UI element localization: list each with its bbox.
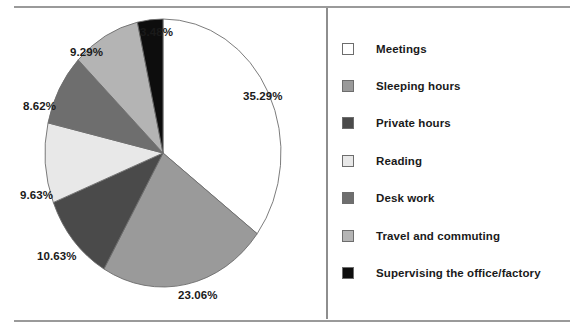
legend-item[interactable]: Travel and commuting	[342, 217, 574, 254]
legend-color-swatch-icon	[342, 192, 354, 204]
legend-color-swatch-icon	[342, 267, 354, 279]
legend-color-swatch-icon	[342, 80, 354, 92]
legend-item-label: Desk work	[376, 192, 434, 204]
legend-item[interactable]: Sleeping hours	[342, 67, 574, 104]
pie-panel: 35.29%23.06%10.63%9.63%8.62%9.29%3.48%	[0, 8, 326, 319]
legend-item[interactable]: Reading	[342, 142, 574, 179]
pie-percentage-label: 9.63%	[20, 189, 53, 201]
legend-color-swatch-icon	[342, 43, 354, 55]
pie-percentage-label: 10.63%	[37, 250, 77, 262]
pie-percentage-label: 23.06%	[178, 289, 218, 301]
pie-chart-figure: 35.29%23.06%10.63%9.63%8.62%9.29%3.48% M…	[0, 0, 578, 329]
panel-divider	[326, 8, 328, 319]
legend-item[interactable]: Private hours	[342, 105, 574, 142]
pie-percentage-label: 8.62%	[23, 100, 56, 112]
legend-item[interactable]: Meetings	[342, 30, 574, 67]
pie-percentage-label: 9.29%	[70, 46, 103, 58]
legend-item-label: Travel and commuting	[376, 230, 500, 242]
legend-item-label: Private hours	[376, 117, 451, 129]
legend-color-swatch-icon	[342, 155, 354, 167]
legend-item-label: Supervising the office/factory	[376, 267, 541, 279]
legend-item[interactable]: Supervising the office/factory	[342, 254, 574, 291]
legend-item[interactable]: Desk work	[342, 180, 574, 217]
legend-color-swatch-icon	[342, 117, 354, 129]
legend-item-label: Reading	[376, 155, 422, 167]
legend-color-swatch-icon	[342, 230, 354, 242]
chart-legend: MeetingsSleeping hoursPrivate hoursReadi…	[342, 30, 574, 292]
pie-percentage-label: 35.29%	[243, 90, 283, 102]
legend-item-label: Sleeping hours	[376, 80, 460, 92]
pie-percentage-label: 3.48%	[140, 26, 173, 38]
bottom-rule	[14, 320, 570, 322]
legend-item-label: Meetings	[376, 43, 427, 55]
